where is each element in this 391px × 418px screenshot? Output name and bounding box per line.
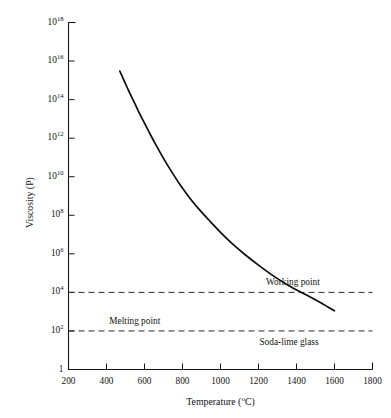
- melting-point-label: Melting point: [109, 317, 160, 326]
- viscosity-temperature-chart: 110210410610810101012101410161018 200400…: [0, 0, 391, 418]
- x-tick-label-3: 800: [176, 377, 190, 386]
- x-tick-label-8: 1800: [363, 377, 382, 386]
- x-tick-label-7: 1600: [325, 377, 344, 386]
- data-curve-group: [120, 71, 335, 311]
- x-axis-title: Temperature (oC): [186, 396, 254, 407]
- x-tick-label-5: 1200: [249, 377, 268, 386]
- x-tick-label-1: 400: [100, 377, 114, 386]
- y-tick-label-5: 1010: [48, 172, 64, 181]
- y-tick-label-0: 1: [59, 365, 64, 374]
- y-tick-label-7: 1014: [48, 95, 64, 104]
- y-tick-label-6: 1012: [48, 134, 64, 143]
- y-tick-label-1: 102: [51, 326, 64, 335]
- y-axis-title: Viscosity (P): [24, 177, 35, 228]
- x-tick-label-4: 1000: [211, 377, 230, 386]
- x-tick-label-2: 600: [138, 377, 152, 386]
- y-tick-label-4: 108: [51, 211, 64, 220]
- x-tick-label-0: 200: [62, 377, 76, 386]
- working-point-label: Working point: [266, 278, 320, 287]
- soda-lime-glass-label: Soda-lime glass: [259, 338, 318, 347]
- x-tick-label-6: 1400: [287, 377, 306, 386]
- y-tick-label-2: 104: [51, 288, 64, 297]
- y-tick-label-9: 1018: [48, 18, 64, 27]
- y-tick-label-3: 106: [51, 249, 64, 258]
- viscosity-curve: [120, 71, 335, 311]
- y-tick-label-8: 1016: [48, 56, 64, 65]
